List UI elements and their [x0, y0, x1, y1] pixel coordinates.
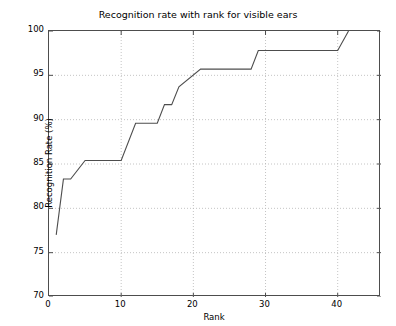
chart-figure: Recognition rate with rank for visible e… — [0, 0, 396, 326]
y-tick-label: 85 — [4, 158, 44, 167]
y-tick-label: 100 — [4, 25, 44, 34]
x-axis-label: Rank — [48, 312, 380, 322]
x-tick-label: 20 — [172, 300, 212, 309]
y-tick-label: 80 — [4, 202, 44, 211]
plot-area — [48, 30, 380, 296]
grid-lines — [49, 31, 381, 297]
recognition-rate-line — [56, 31, 348, 235]
data-series-group — [56, 31, 348, 235]
y-axis-label: Recognition Rate (%) — [44, 118, 54, 208]
chart-title: Recognition rate with rank for visible e… — [0, 9, 396, 20]
x-tick-label: 0 — [28, 300, 68, 309]
plot-canvas — [49, 31, 381, 297]
x-tick-label: 40 — [317, 300, 357, 309]
y-tick-label: 95 — [4, 69, 44, 78]
x-tick-label: 30 — [245, 300, 285, 309]
y-tick-label: 70 — [4, 291, 44, 300]
y-tick-label: 90 — [4, 114, 44, 123]
x-tick-label: 10 — [100, 300, 140, 309]
y-tick-label: 75 — [4, 247, 44, 256]
